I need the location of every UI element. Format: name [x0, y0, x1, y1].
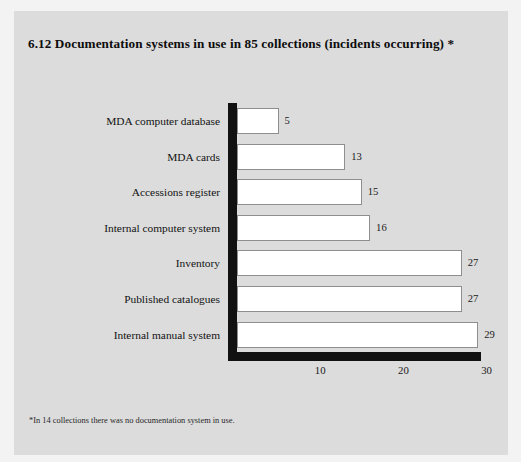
figure-container: 6.12 Documentation systems in use in 85 …	[0, 0, 521, 473]
category-label-text: Inventory	[176, 257, 220, 269]
bar-0	[237, 108, 279, 134]
x-tick-label: 20	[398, 364, 409, 376]
bar-value-label: 27	[468, 250, 479, 276]
bar-5	[237, 286, 462, 312]
bar-value-label: 15	[368, 179, 379, 205]
bar-value-label: 27	[468, 286, 479, 312]
x-tick-label: 30	[481, 364, 492, 376]
category-label: Internal manual system	[25, 322, 220, 348]
x-axis-line	[228, 352, 481, 361]
bar-4	[237, 250, 462, 276]
plot-area: 5131516272729 MDA computer databaseMDA c…	[0, 0, 521, 473]
y-axis-line	[228, 103, 237, 358]
category-label: MDA computer database	[25, 108, 220, 134]
category-label: Internal computer system	[25, 215, 220, 241]
category-label-text: Internal manual system	[114, 329, 220, 341]
category-label: Inventory	[25, 250, 220, 276]
category-label-text: Published catalogues	[124, 293, 220, 305]
bar-value-label: 16	[376, 215, 387, 241]
category-label-text: MDA cards	[167, 151, 220, 163]
category-label: Accessions register	[25, 179, 220, 205]
bar-value-label: 5	[285, 108, 290, 134]
bar-6	[237, 322, 478, 348]
bar-value-label: 13	[351, 144, 362, 170]
bar-value-label: 29	[484, 322, 495, 348]
bar-1	[237, 144, 345, 170]
category-label-text: MDA computer database	[106, 115, 220, 127]
category-label: Published catalogues	[25, 286, 220, 312]
x-tick-label: 10	[315, 364, 326, 376]
bar-3	[237, 215, 370, 241]
category-label-text: Accessions register	[132, 186, 220, 198]
bar-2	[237, 179, 362, 205]
category-label-text: Internal computer system	[104, 222, 220, 234]
chart-footnote: *In 14 collections there was no document…	[29, 416, 235, 425]
category-label: MDA cards	[25, 144, 220, 170]
